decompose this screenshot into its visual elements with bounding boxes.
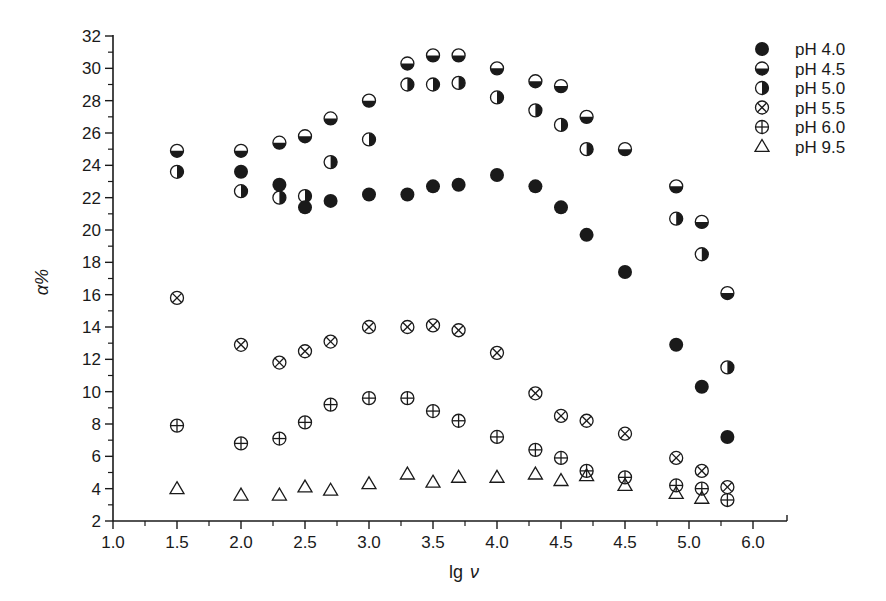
data-point bbox=[299, 130, 312, 143]
data-point bbox=[234, 165, 248, 179]
data-point bbox=[721, 493, 734, 506]
data-point bbox=[721, 287, 734, 300]
data-point bbox=[401, 321, 414, 334]
legend: pH 4.0pH 4.5pH 5.0pH 5.5pH 6.0pH 9.5 bbox=[755, 40, 845, 157]
data-points bbox=[170, 49, 734, 507]
data-point bbox=[452, 178, 466, 192]
data-point bbox=[452, 76, 465, 89]
data-point bbox=[619, 143, 632, 156]
x-tick-label: 4.0 bbox=[485, 533, 509, 552]
x-axis-title: lg ν bbox=[449, 562, 479, 582]
data-point bbox=[324, 194, 338, 208]
data-point bbox=[273, 356, 286, 369]
legend-label: pH 9.5 bbox=[795, 138, 845, 157]
data-point bbox=[427, 49, 440, 62]
data-point bbox=[669, 338, 683, 352]
data-point bbox=[618, 265, 632, 279]
data-point bbox=[670, 180, 683, 193]
data-point bbox=[426, 179, 440, 193]
legend-item: pH 6.0 bbox=[756, 118, 846, 137]
x-tick-label: 4.5 bbox=[549, 533, 573, 552]
data-point bbox=[363, 94, 376, 107]
y-tick-label: 12 bbox=[82, 350, 101, 369]
data-point bbox=[528, 179, 542, 193]
data-point bbox=[490, 470, 504, 482]
data-point bbox=[171, 144, 184, 157]
data-point bbox=[427, 319, 440, 332]
x-tick-label: 1.0 bbox=[101, 533, 125, 552]
data-point bbox=[324, 112, 337, 125]
data-point bbox=[273, 191, 286, 204]
data-point bbox=[234, 488, 248, 500]
y-tick-label: 18 bbox=[82, 253, 101, 272]
data-point bbox=[695, 248, 708, 261]
data-point bbox=[298, 200, 312, 214]
data-point bbox=[427, 405, 440, 418]
data-point bbox=[324, 483, 338, 495]
legend-item: pH 4.5 bbox=[756, 60, 846, 79]
y-tick-label: 22 bbox=[82, 189, 101, 208]
legend-item: pH 9.5 bbox=[755, 138, 845, 157]
data-point bbox=[580, 464, 593, 477]
x-tick-label: 3.0 bbox=[357, 533, 381, 552]
data-point bbox=[235, 437, 248, 450]
legend-label: pH 5.5 bbox=[795, 99, 845, 118]
data-point bbox=[452, 414, 465, 427]
data-point bbox=[299, 345, 312, 358]
x-axis-title-main: lg bbox=[449, 562, 463, 582]
x-axis-title-symbol: ν bbox=[470, 562, 479, 582]
y-tick-label: 24 bbox=[82, 156, 101, 175]
x-tick-label: 5.0 bbox=[677, 533, 701, 552]
y-axis-title: α% bbox=[32, 269, 52, 295]
legend-label: pH 5.0 bbox=[795, 79, 845, 98]
data-point bbox=[695, 380, 709, 394]
data-point bbox=[670, 212, 683, 225]
legend-item: pH 5.0 bbox=[756, 79, 846, 98]
y-tick-label: 32 bbox=[82, 27, 101, 46]
data-point bbox=[170, 482, 184, 494]
y-tick-label: 8 bbox=[92, 415, 101, 434]
data-point bbox=[363, 321, 376, 334]
data-point bbox=[235, 185, 248, 198]
data-point bbox=[452, 324, 465, 337]
x-tick-label: 2.5 bbox=[293, 533, 317, 552]
data-point bbox=[529, 104, 542, 117]
x-tick-label: 4.5 bbox=[613, 533, 637, 552]
data-point bbox=[695, 215, 708, 228]
data-point bbox=[555, 451, 568, 464]
data-point bbox=[452, 470, 466, 482]
y-tick-label: 30 bbox=[82, 59, 101, 78]
data-point bbox=[554, 474, 568, 486]
data-point bbox=[273, 136, 286, 149]
data-point bbox=[491, 346, 504, 359]
data-point bbox=[721, 481, 734, 494]
y-tick-label: 14 bbox=[82, 318, 101, 337]
data-point bbox=[401, 392, 414, 405]
data-point bbox=[235, 144, 248, 157]
data-point bbox=[363, 392, 376, 405]
legend-item: pH 5.5 bbox=[756, 99, 846, 118]
legend-marker-icon bbox=[756, 101, 769, 114]
y-tick-label: 28 bbox=[82, 92, 101, 111]
data-point bbox=[400, 467, 414, 479]
data-point bbox=[273, 432, 286, 445]
legend-marker-icon bbox=[756, 82, 769, 95]
y-tick-label: 6 bbox=[92, 447, 101, 466]
legend-label: pH 6.0 bbox=[795, 118, 845, 137]
data-point bbox=[555, 80, 568, 93]
y-tick-label: 10 bbox=[82, 383, 101, 402]
data-point bbox=[235, 338, 248, 351]
data-point bbox=[529, 443, 542, 456]
legend-marker-icon bbox=[756, 121, 769, 134]
legend-marker-icon bbox=[755, 42, 769, 56]
data-point bbox=[363, 133, 376, 146]
data-point bbox=[362, 477, 376, 489]
data-point bbox=[272, 178, 286, 192]
data-point bbox=[362, 187, 376, 201]
data-point bbox=[171, 291, 184, 304]
data-point bbox=[491, 62, 504, 75]
data-point bbox=[580, 228, 594, 242]
data-point bbox=[555, 409, 568, 422]
y-tick-label: 4 bbox=[92, 480, 101, 499]
data-point bbox=[299, 416, 312, 429]
